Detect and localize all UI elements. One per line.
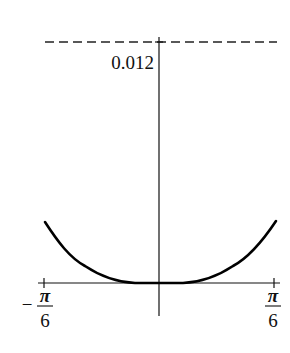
x-tick-label-left-denominator: 6 (40, 310, 50, 331)
chart-plot: 0.012 − π 6 π 6 (0, 0, 290, 353)
function-curve (45, 221, 276, 283)
x-tick-label-right-numerator: π (268, 285, 279, 306)
x-tick-label-right-denominator: 6 (268, 310, 278, 331)
x-tick-label-left-sign: − (22, 294, 33, 315)
y-tick-label: 0.012 (111, 52, 154, 73)
x-tick-label-left-numerator: π (40, 285, 51, 306)
